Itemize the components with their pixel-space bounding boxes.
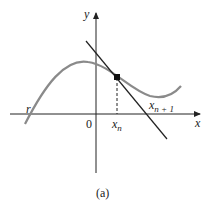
tangent-line	[86, 41, 167, 139]
caption: (a)	[96, 187, 109, 199]
x-axis-label: x	[195, 117, 200, 129]
diagram-canvas	[0, 0, 208, 202]
origin-label: 0	[86, 118, 92, 130]
tangent-point	[114, 74, 120, 80]
y-axis-label: y	[84, 8, 89, 20]
newton-method-diagram: y x 0 r xn xn + 1 (a)	[0, 0, 208, 202]
xn-label: xn	[112, 118, 122, 133]
xn1-label: xn + 1	[149, 99, 174, 114]
root-label: r	[26, 103, 31, 115]
function-curve	[25, 62, 181, 124]
